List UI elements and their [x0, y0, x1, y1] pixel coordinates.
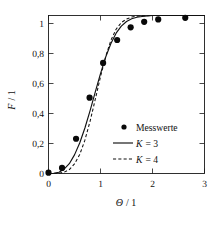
legend-label-messwerte: Messwerte [136, 122, 178, 133]
scatter-line-chart: 0 0,2 0,4 0,6 0,8 1 0 1 2 3 F/ 1 Θ/ 1 [0, 0, 222, 228]
svg-text:Θ/ 1: Θ/ 1 [116, 197, 137, 208]
y-tick-label: 0 [39, 170, 44, 180]
legend-k4-value: = 4 [145, 154, 158, 165]
x-tick-label: 1 [98, 180, 103, 190]
data-point [114, 37, 120, 43]
legend-k3-value: = 3 [145, 138, 158, 149]
y-axis-unit: / 1 [6, 90, 17, 100]
y-tick-label: 0,4 [32, 110, 44, 120]
x-tick-label: 2 [150, 180, 155, 190]
data-point [45, 170, 51, 176]
data-point [141, 19, 147, 25]
data-point [128, 24, 134, 30]
data-point [155, 16, 161, 22]
data-point [59, 165, 65, 171]
x-axis-title: Θ/ 1 [116, 197, 137, 208]
y-axis-symbol: F [6, 103, 17, 111]
y-tick-label: 0,6 [32, 80, 44, 90]
x-tick-label: 3 [202, 180, 207, 190]
x-axis-unit: / 1 [126, 197, 136, 208]
svg-text:F/ 1: F/ 1 [6, 90, 17, 110]
legend-dot-icon [121, 124, 126, 129]
data-point [86, 95, 92, 101]
y-tick-label: 1 [39, 20, 44, 30]
legend-k-symbol: K [135, 138, 143, 149]
x-axis-symbol: Θ [116, 197, 123, 208]
y-tick-label: 0,2 [32, 140, 44, 150]
y-tick-label: 0,8 [32, 50, 44, 60]
data-point [182, 15, 188, 21]
legend-k-symbol: K [135, 154, 143, 165]
x-tick-label: 0 [46, 180, 51, 190]
legend-label-k3: K= 3 [135, 138, 158, 149]
data-point [100, 60, 106, 66]
legend-label-k4: K= 4 [135, 154, 158, 165]
y-axis-title: F/ 1 [6, 90, 17, 110]
figure-container: 0 0,2 0,4 0,6 0,8 1 0 1 2 3 F/ 1 Θ/ 1 [0, 0, 222, 228]
data-point [73, 136, 79, 142]
